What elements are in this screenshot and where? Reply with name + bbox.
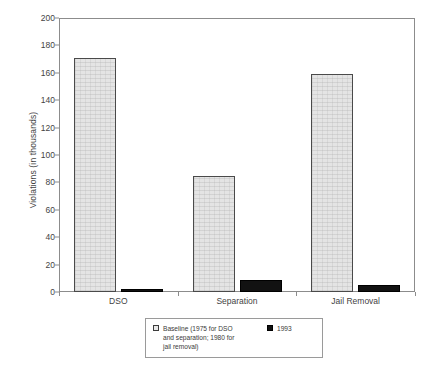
x-axis-label-jail-removal: Jail Removal: [296, 296, 415, 306]
y-tick-label: 60: [46, 205, 55, 215]
y-tick-label: 180: [41, 40, 55, 50]
y-tick-label: 100: [41, 150, 55, 160]
legend-swatch-1993-icon: [267, 325, 273, 331]
legend-item-1993: 1993: [267, 324, 322, 333]
bar-chart: Violations (in thousands) 02040608010012…: [0, 0, 431, 374]
y-axis-title: Violations (in thousands): [28, 65, 38, 255]
y-tick-label: 40: [46, 232, 55, 242]
bar-jail-removal-1993: [358, 285, 400, 292]
y-tick-label: 160: [41, 68, 55, 78]
legend-label-1993: 1993: [277, 324, 292, 333]
legend-swatch-baseline-icon: [153, 325, 159, 331]
legend: Baseline (1975 for DSO and separation; 1…: [145, 318, 323, 358]
y-tick-label: 20: [46, 260, 55, 270]
bar-dso-1993: [121, 289, 163, 292]
x-axis-label-dso: DSO: [59, 296, 178, 306]
y-tick-label: 200: [41, 13, 55, 23]
y-tick-label: 120: [41, 123, 55, 133]
bar-dso-baseline-1975-for-dso: [74, 58, 116, 292]
x-tick-mark: [415, 292, 416, 296]
bars-layer: [59, 18, 415, 292]
y-tick-label: 80: [46, 177, 55, 187]
legend-item-baseline: Baseline (1975 for DSO and separation; 1…: [153, 324, 258, 351]
bar-jail-removal-baseline-1975-for-dso: [311, 74, 353, 292]
legend-label-baseline: Baseline (1975 for DSO and separation; 1…: [163, 324, 235, 351]
x-axis-labels: DSOSeparationJail Removal: [59, 296, 415, 312]
bar-separation-baseline-1975-for-dso: [193, 176, 235, 292]
x-axis-label-separation: Separation: [178, 296, 297, 306]
y-tick-label: 140: [41, 95, 55, 105]
bar-separation-1993: [240, 280, 282, 292]
